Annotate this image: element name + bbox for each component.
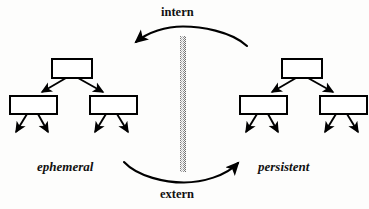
label-ephemeral: ephemeral	[37, 160, 93, 173]
diagram-canvas: intern extern ephemeral persistent	[0, 0, 369, 209]
edge-root-to-right-child	[78, 78, 103, 92]
left-tree-leaf-edges	[16, 114, 128, 132]
leaf-arrow	[95, 114, 106, 132]
label-intern: intern	[161, 6, 194, 19]
leaf-arrow	[16, 114, 27, 132]
label-persistent: persistent	[258, 160, 309, 173]
leaf-arrow	[268, 114, 278, 132]
node-box-child-right	[320, 96, 367, 114]
diagram-svg	[0, 0, 369, 209]
leaf-arrow	[38, 114, 48, 132]
intern-arc-arrow	[136, 27, 247, 47]
left-tree	[10, 59, 137, 132]
left-tree-root-edges	[42, 78, 103, 92]
leaf-arrow	[325, 114, 336, 132]
node-box-root	[52, 59, 92, 78]
right-tree-root-edges	[272, 78, 333, 92]
node-box-child-left	[240, 96, 287, 114]
edge-root-to-left-child	[272, 78, 296, 92]
edge-root-to-right-child	[308, 78, 333, 92]
edge-root-to-left-child	[42, 78, 66, 92]
leaf-arrow	[246, 114, 257, 132]
leaf-arrow	[347, 114, 358, 132]
node-box-child-right	[90, 96, 137, 114]
node-box-child-left	[10, 96, 57, 114]
right-tree-leaf-edges	[246, 114, 358, 132]
label-extern: extern	[160, 188, 194, 201]
leaf-arrow	[117, 114, 128, 132]
node-box-root	[282, 59, 322, 78]
barrier-bar	[180, 36, 186, 172]
right-tree	[240, 59, 367, 132]
